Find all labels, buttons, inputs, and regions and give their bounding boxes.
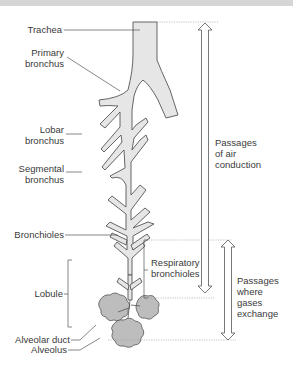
- label-line: Respiratory: [151, 257, 200, 268]
- label-lobule: Lobule: [10, 288, 63, 299]
- label-line: bronchus: [4, 174, 64, 185]
- label-line: Lobar: [10, 124, 64, 135]
- label-line: Segmental: [4, 163, 64, 174]
- label-alveolus: Alveolus: [10, 344, 67, 355]
- label-trachea: Trachea: [10, 24, 62, 35]
- label-line: Passages: [237, 275, 279, 286]
- label-line: bronchioles: [151, 268, 200, 279]
- label-bronchioles: Bronchioles: [2, 229, 64, 240]
- double-arrows: [198, 23, 235, 340]
- alveoli-clusters: [99, 293, 159, 347]
- label-respiratory-bronchioles: Respiratory bronchioles: [151, 257, 200, 279]
- label-line: of air: [215, 148, 261, 159]
- label-line: conduction: [215, 159, 261, 170]
- label-lobar-bronchus: Lobar bronchus: [10, 124, 64, 146]
- label-line: Passages: [215, 137, 261, 148]
- label-line: bronchus: [10, 58, 64, 69]
- label-primary-bronchus: Primary bronchus: [10, 47, 64, 69]
- label-segmental-bronchus: Segmental bronchus: [4, 163, 64, 185]
- label-line: gases: [237, 297, 279, 308]
- label-line: Primary: [10, 47, 64, 58]
- label-line: bronchus: [10, 135, 64, 146]
- label-gas-exchange: Passages where gases exchange: [237, 275, 279, 319]
- label-air-conduction: Passages of air conduction: [215, 137, 261, 170]
- label-line: where: [237, 286, 279, 297]
- label-line: exchange: [237, 308, 279, 319]
